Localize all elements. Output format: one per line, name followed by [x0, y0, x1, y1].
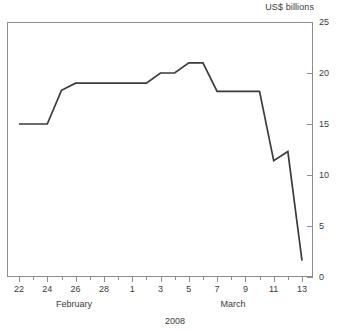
x-tick-mark-minor — [118, 277, 119, 280]
x-tick-mark-major — [19, 277, 20, 282]
x-tick-mark-major — [217, 277, 218, 282]
y-tick-mark — [307, 22, 313, 23]
y-tick-label: 0 — [319, 272, 324, 282]
x-tick-mark-major — [76, 277, 77, 282]
x-tick-label: 24 — [42, 284, 52, 294]
x-tick-mark-major — [132, 277, 133, 282]
x-tick-label: 28 — [99, 284, 109, 294]
x-tick-mark-major — [245, 277, 246, 282]
x-tick-mark-major — [189, 277, 190, 282]
x-tick-mark-major — [104, 277, 105, 282]
x-tick-mark-minor — [231, 277, 232, 280]
y-tick-mark — [307, 277, 313, 278]
x-axis-month-label-march: March — [220, 299, 245, 309]
x-tick-mark-minor — [260, 277, 261, 280]
x-tick-label: 1 — [130, 284, 135, 294]
y-tick-label: 10 — [319, 170, 329, 180]
x-tick-mark-major — [274, 277, 275, 282]
x-tick-label: 13 — [297, 284, 307, 294]
y-tick-label: 25 — [319, 17, 329, 27]
x-axis-year-label: 2008 — [165, 316, 185, 326]
x-tick-mark-minor — [203, 277, 204, 280]
x-tick-label: 5 — [186, 284, 191, 294]
y-tick-label: 15 — [319, 119, 329, 129]
x-tick-label: 26 — [71, 284, 81, 294]
x-tick-label: 3 — [158, 284, 163, 294]
y-tick-label: 20 — [319, 68, 329, 78]
x-tick-mark-minor — [175, 277, 176, 280]
x-axis-month-label-february: February — [56, 299, 92, 309]
x-tick-mark-minor — [146, 277, 147, 280]
series-line-us-dollar-billions — [19, 63, 302, 261]
y-tick-mark — [307, 73, 313, 74]
series-line-layer — [0, 0, 350, 331]
y-tick-mark — [307, 226, 313, 227]
x-tick-label: 22 — [14, 284, 24, 294]
y-tick-mark — [307, 175, 313, 176]
x-tick-mark-minor — [90, 277, 91, 280]
x-tick-label: 11 — [269, 284, 278, 294]
x-tick-mark-major — [47, 277, 48, 282]
x-tick-mark-minor — [288, 277, 289, 280]
x-tick-mark-major — [302, 277, 303, 282]
x-tick-mark-minor — [33, 277, 34, 280]
chart-container: US$ billions 0510152025 2224262813579111… — [0, 0, 350, 331]
x-tick-label: 9 — [243, 284, 248, 294]
y-tick-mark — [307, 124, 313, 125]
x-tick-mark-minor — [62, 277, 63, 280]
x-tick-label: 7 — [215, 284, 220, 294]
y-tick-label: 5 — [319, 221, 324, 231]
x-tick-mark-major — [161, 277, 162, 282]
